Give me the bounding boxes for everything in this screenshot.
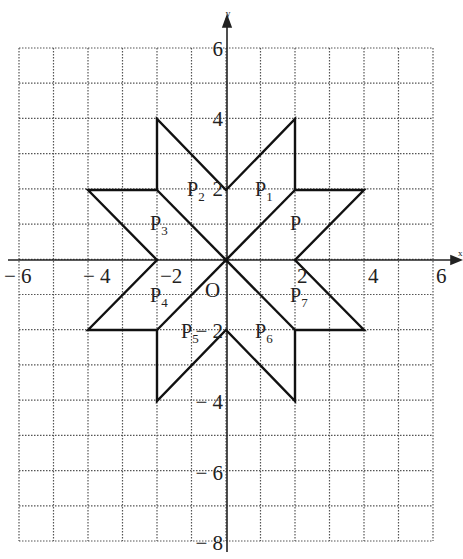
- dotted-grid: [19, 48, 433, 541]
- region-label-p3: P3: [150, 212, 168, 238]
- x-axis-name: x: [458, 248, 463, 258]
- region-label-p: P: [290, 212, 301, 234]
- y-tick-m4: − 4: [195, 390, 223, 414]
- coordinate-diagram: y x − 6 − 4 −2 2 4 6 6 4 2 − 2 − 4 − 6 −…: [0, 0, 463, 559]
- region-label-p2: P2: [187, 178, 205, 204]
- region-label-p1: P1: [255, 178, 273, 204]
- origin-dot: [224, 258, 229, 263]
- y-tick-p4: 4: [213, 107, 224, 131]
- x-tick-m6: − 6: [4, 264, 32, 288]
- region-label-p6: P6: [255, 320, 273, 346]
- x-tick-m2: −2: [160, 264, 182, 288]
- x-tick-p6: 6: [436, 264, 447, 288]
- y-tick-m6: − 6: [195, 461, 223, 485]
- y-axis-name: y: [226, 8, 231, 19]
- origin-label: O: [205, 278, 220, 302]
- x-tick-labels: − 6 − 4 −2 2 4 6: [4, 264, 447, 288]
- y-tick-p2: 2: [213, 177, 224, 201]
- y-tick-m2: − 2: [195, 319, 223, 343]
- x-tick-m4: − 4: [83, 264, 111, 288]
- axes: [8, 16, 461, 552]
- y-tick-m8: − 8: [195, 531, 223, 555]
- y-tick-p6: 6: [213, 37, 224, 61]
- x-tick-p4: 4: [368, 264, 379, 288]
